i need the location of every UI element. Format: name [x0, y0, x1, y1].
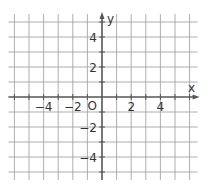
x-tick-label: −2 [64, 100, 82, 114]
coordinate-plane: −4−22442−2−4Oxy [0, 0, 210, 193]
origin-label: O [88, 99, 97, 113]
y-tick-label: 2 [89, 61, 97, 75]
y-tick-label: −4 [79, 151, 97, 165]
y-axis-arrow-icon [100, 12, 105, 19]
x-tick-label: 4 [157, 100, 165, 114]
x-axis-label: x [188, 81, 195, 95]
y-axis-label: y [107, 12, 114, 26]
y-tick-label: −2 [79, 121, 97, 135]
x-tick-label: 2 [127, 100, 135, 114]
x-axis-arrow-icon [193, 95, 200, 100]
y-tick-label: 4 [89, 31, 97, 45]
x-tick-label: −4 [35, 100, 53, 114]
